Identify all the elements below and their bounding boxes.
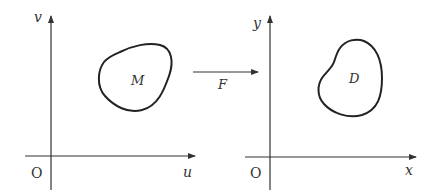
right-panel: y O x D [245,15,416,190]
right-origin-label: O [250,165,261,181]
left-origin-label: O [31,165,42,181]
region-m-label: M [130,73,145,88]
v-axis-label: v [34,9,42,25]
diagram-svg: v O u M F y O x D [0,0,430,194]
y-axis-label: y [252,15,262,31]
x-axis-label: x [405,162,413,178]
u-axis-label: u [183,164,192,180]
diagram-canvas: v O u M F y O x D [0,0,430,194]
left-panel: v O u M [25,9,195,190]
mapping-label: F [217,77,228,92]
mapping-arrow: F [193,72,258,92]
region-d-label: D [348,71,360,86]
